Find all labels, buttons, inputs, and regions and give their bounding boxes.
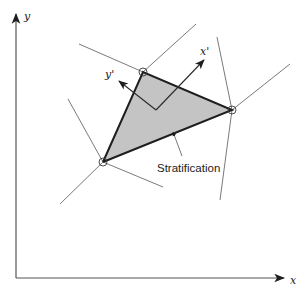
x-axis-label: x bbox=[290, 274, 297, 287]
y-axis-label: y bbox=[23, 10, 31, 23]
global-axes: y x bbox=[16, 10, 297, 287]
line-bl-upleft bbox=[68, 99, 103, 162]
stratification-annotation: Stratification bbox=[157, 132, 220, 174]
triangle-stratification-diagram: y x x' y' Stratification bbox=[0, 0, 306, 304]
stratification-label: Stratification bbox=[157, 162, 220, 174]
y-prime-label: y' bbox=[104, 68, 114, 81]
triangle-element bbox=[103, 72, 232, 162]
x-prime-label: x' bbox=[200, 45, 209, 58]
annotation-pointer bbox=[173, 132, 182, 156]
line-bl-downleft bbox=[60, 162, 103, 204]
line-bl-downright bbox=[103, 162, 163, 187]
line-right-upright bbox=[232, 64, 290, 110]
line-right-down bbox=[220, 110, 232, 200]
line-right-up bbox=[217, 37, 232, 110]
line-top-upright bbox=[143, 24, 196, 72]
